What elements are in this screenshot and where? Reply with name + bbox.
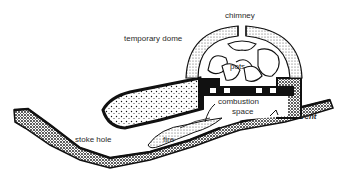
label-chimney: chimney	[225, 12, 255, 20]
label-pots: pots	[230, 63, 245, 71]
earth-mound	[103, 78, 205, 128]
chimney-opening	[238, 26, 246, 36]
label-temporary-dome: temporary dome	[124, 35, 182, 43]
label-combustion-line2: space	[232, 108, 253, 116]
label-fire: fire	[163, 136, 174, 144]
kiln-diagram: chimney temporary dome pots combustion s…	[0, 0, 341, 181]
kiln-illustration	[0, 0, 341, 181]
label-stoke-hole: stoke hole	[75, 136, 111, 144]
label-vent: vent	[300, 113, 316, 121]
label-combustion-line1: combustion	[218, 98, 259, 106]
